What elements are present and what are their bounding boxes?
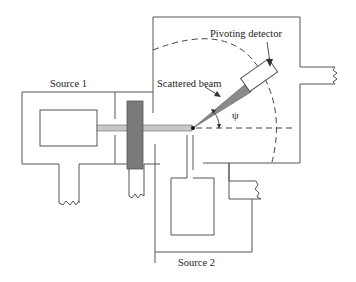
pivoting-detector bbox=[241, 59, 278, 92]
source1-chamber-outline bbox=[22, 92, 115, 203]
incident-beam bbox=[97, 125, 192, 131]
scattered-beam-arrowhead bbox=[214, 91, 221, 97]
detector-path-arc bbox=[153, 39, 276, 162]
label-angle-psi: ψ bbox=[232, 110, 239, 121]
label-pivoting-detector: Pivoting detector bbox=[210, 28, 283, 39]
outlet-break-right bbox=[333, 67, 337, 84]
source1-pipe-break bbox=[59, 201, 79, 205]
middle-pipe-right bbox=[144, 164, 160, 196]
source2-pipe bbox=[171, 178, 214, 235]
target-block bbox=[127, 101, 143, 169]
scattering-diagram: Source 1 Scattered beam Pivoting detecto… bbox=[0, 0, 356, 282]
label-source1: Source 1 bbox=[50, 78, 87, 89]
source2-outlet-upper bbox=[229, 163, 256, 181]
scattering-point bbox=[191, 126, 195, 130]
source1-pipe-right bbox=[79, 164, 115, 203]
label-scattered-beam: Scattered beam bbox=[157, 78, 221, 89]
label-source2: Source 2 bbox=[178, 257, 215, 268]
source1-inner-box bbox=[40, 110, 97, 146]
main-chamber-outlet-lower bbox=[203, 84, 335, 163]
source2-outlet-break bbox=[252, 181, 261, 199]
middle-pipe-break bbox=[129, 194, 144, 198]
source2-chamber-outline bbox=[155, 163, 252, 252]
